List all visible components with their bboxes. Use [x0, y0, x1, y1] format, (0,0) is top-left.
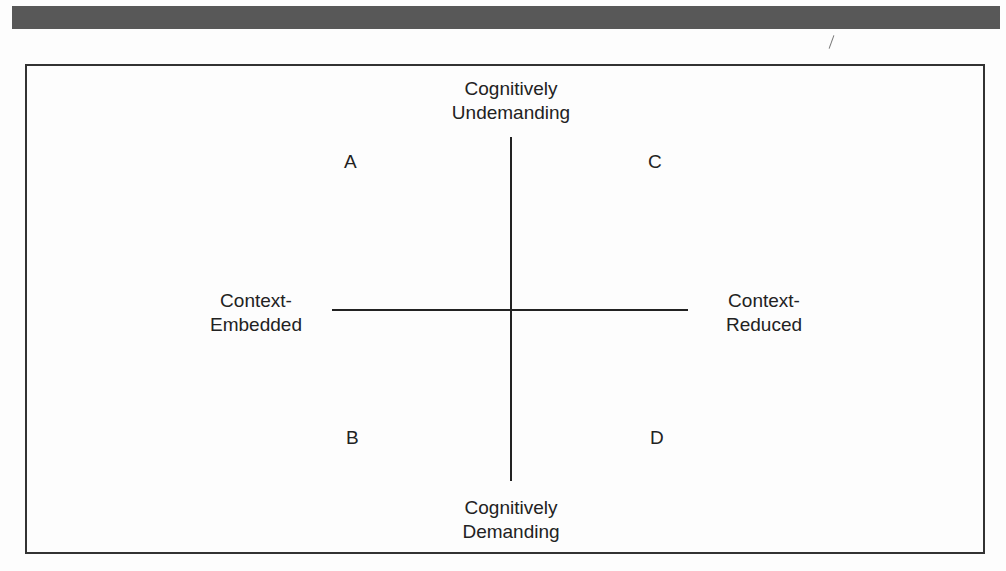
axis-label-right: Context- Reduced — [694, 289, 834, 337]
axis-label-right-line1: Context- — [694, 289, 834, 313]
stray-mark — [829, 35, 835, 48]
axis-label-left-line2: Embedded — [186, 313, 326, 337]
axis-label-bottom: Cognitively Demanding — [431, 496, 591, 544]
axis-label-bottom-line1: Cognitively — [431, 496, 591, 520]
axis-label-left: Context- Embedded — [186, 289, 326, 337]
axis-label-right-line2: Reduced — [694, 313, 834, 337]
quadrant-label-c: C — [648, 151, 662, 173]
axis-label-top-line1: Cognitively — [431, 77, 591, 101]
axis-label-top: Cognitively Undemanding — [431, 77, 591, 125]
axis-label-top-line2: Undemanding — [431, 101, 591, 125]
axis-label-bottom-line2: Demanding — [431, 520, 591, 544]
quadrant-label-d: D — [650, 427, 664, 449]
header-band — [12, 6, 1000, 29]
horizontal-axis — [332, 309, 688, 311]
quadrant-label-a: A — [344, 151, 357, 173]
axis-label-left-line1: Context- — [186, 289, 326, 313]
quadrant-label-b: B — [346, 427, 359, 449]
page: Cognitively Undemanding Cognitively Dema… — [0, 0, 1006, 571]
